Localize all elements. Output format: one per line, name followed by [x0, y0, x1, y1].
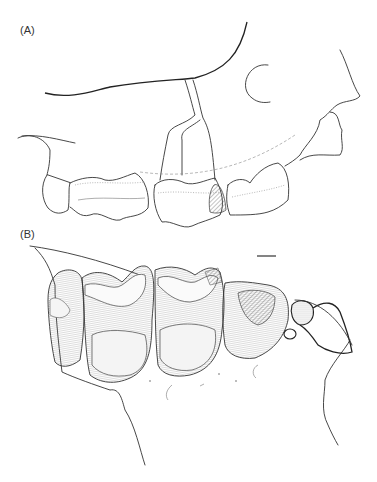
panel-a-drawing — [18, 22, 360, 227]
figure-drawing — [0, 0, 377, 482]
panel-b-drawing — [30, 246, 352, 465]
